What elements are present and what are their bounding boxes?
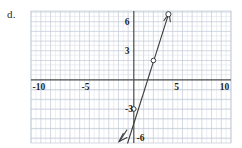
y-tick-label--3: -3 (125, 104, 133, 114)
x-tick-label-5: 5 (174, 82, 179, 92)
plot-background (31, 11, 231, 143)
x-tick-label-10: 10 (220, 82, 230, 92)
part-label: d. (7, 8, 16, 20)
graph-figure: d. (0, 0, 242, 148)
point-upper-end (166, 12, 171, 17)
y-tick-label-6: 6 (125, 17, 130, 27)
y-tick-label-3: 3 (125, 46, 130, 56)
y-tick-label--6: -6 (137, 133, 145, 143)
coordinate-plane: -10 -5 5 10 6 3 -3 -6 (0, 0, 242, 148)
point-on-line (151, 58, 156, 63)
x-tick-label--5: -5 (82, 82, 90, 92)
x-tick-label--10: -10 (33, 82, 46, 92)
